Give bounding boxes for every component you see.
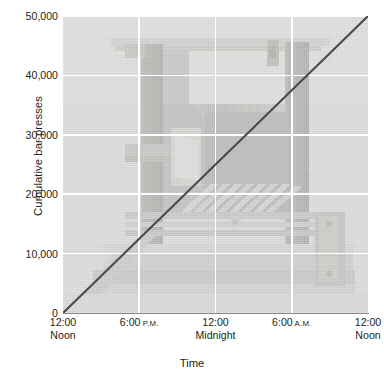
y-tick-label: 10,000 [4, 248, 58, 260]
y-tick-label: 20,000 [4, 188, 58, 200]
x-tick-time: 12:00 [50, 316, 77, 329]
x-tick-label: 12:00Noon [50, 316, 77, 342]
x-tick-period: Noon [355, 329, 382, 342]
x-axis-spine [63, 313, 369, 314]
x-tick-time: 12:00 [195, 316, 235, 329]
x-tick-meridiem: A.M. [293, 319, 312, 328]
cumulative-record-chart: Cumulative bar presses 010,00020,00030,0… [0, 0, 384, 380]
x-tick-label: 6:00 A.M. [272, 316, 311, 330]
x-tick-period: Noon [50, 329, 77, 342]
x-tick-label: 6:00 P.M. [120, 316, 159, 330]
x-tick-label: 12:00Midnight [195, 316, 235, 342]
y-tick-label: 50,000 [4, 10, 58, 22]
y-tick-label: 30,000 [4, 129, 58, 141]
x-tick-time: 6:00 P.M. [120, 316, 159, 330]
x-tick-period: Midnight [195, 329, 235, 342]
x-axis-tick-labels: 12:00Noon6:00 P.M.12:00Midnight6:00 A.M.… [0, 316, 384, 356]
plot-area [63, 16, 368, 313]
y-tick-label: 40,000 [4, 69, 58, 81]
cumulative-line-series [63, 16, 368, 313]
x-axis-title: Time [0, 357, 384, 369]
x-tick-time: 12:00 [355, 316, 382, 329]
x-tick-label: 12:00Noon [355, 316, 382, 342]
x-tick-time: 6:00 A.M. [272, 316, 311, 330]
x-tick-meridiem: P.M. [140, 319, 158, 328]
